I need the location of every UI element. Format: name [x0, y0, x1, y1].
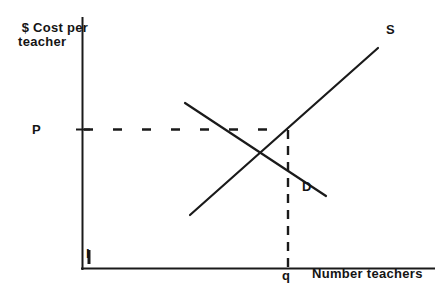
- y-axis-title: $ Cost perteacher: [6, 6, 88, 79]
- equilibrium-price-label: P: [32, 123, 41, 138]
- supply-curve-label: S: [386, 23, 395, 38]
- y-axis-title-line-2: teacher: [6, 35, 88, 50]
- y-axis-title-line-1: $ Cost per: [22, 20, 89, 35]
- economics-supply-demand-figure: $ Cost perteacher Number teachers P q S …: [0, 0, 436, 287]
- demand-curve-label: D: [302, 180, 311, 195]
- x-axis-title: Number teachers: [312, 267, 423, 282]
- equilibrium-quantity-label: q: [282, 269, 290, 284]
- origin-tick-label: l: [86, 247, 90, 262]
- supply-curve: [190, 48, 378, 215]
